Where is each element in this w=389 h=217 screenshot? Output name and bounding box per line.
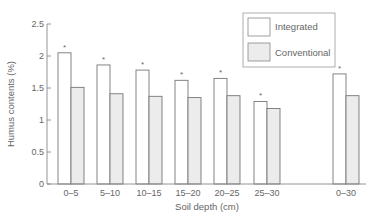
bar-group: * <box>58 43 84 184</box>
significance-marker: * <box>63 43 66 52</box>
bar-integrated <box>333 74 346 184</box>
bar-integrated <box>214 78 227 184</box>
x-tick-label: 0–5 <box>63 188 78 198</box>
significance-marker: * <box>141 60 144 69</box>
bar-conventional <box>149 96 162 184</box>
x-axis: 0–55–1010–1515–2020–2525–300–30 <box>47 184 366 198</box>
legend-label-integrated: Integrated <box>275 21 318 32</box>
significance-marker: * <box>259 91 262 100</box>
legend-swatch-integrated <box>248 18 270 36</box>
legend-label-conventional: Conventional <box>275 47 330 58</box>
y-tick-label: 2 <box>39 51 44 61</box>
bar-conventional <box>71 87 84 184</box>
bar-group: * <box>136 60 162 184</box>
significance-marker: * <box>180 70 183 79</box>
bar-integrated <box>175 80 188 184</box>
y-tick-label: 0.5 <box>31 147 44 157</box>
significance-marker: * <box>338 64 341 73</box>
bar-conventional <box>188 98 201 184</box>
legend: Integrated Conventional <box>243 13 335 67</box>
y-axis: 00.511.522.5 <box>31 19 51 189</box>
y-axis-title: Humus contents (%) <box>5 61 16 147</box>
bar-integrated <box>58 53 71 184</box>
bar-integrated <box>136 70 149 184</box>
x-tick-label: 0–30 <box>336 188 356 198</box>
x-tick-label: 20–25 <box>214 188 239 198</box>
x-tick-label: 25–30 <box>254 188 279 198</box>
y-tick-label: 2.5 <box>31 19 44 29</box>
x-axis-title: Soil depth (cm) <box>175 201 239 212</box>
y-tick-label: 1.5 <box>31 83 44 93</box>
bar-integrated <box>254 101 267 184</box>
significance-marker: * <box>102 55 105 64</box>
x-tick-label: 10–15 <box>136 188 161 198</box>
bar-group: * <box>97 55 123 184</box>
bar-group: * <box>254 91 280 184</box>
legend-swatch-conventional <box>248 43 270 61</box>
bar-conventional <box>267 108 280 184</box>
bar-conventional <box>227 96 240 184</box>
bar-conventional <box>110 94 123 184</box>
bar-conventional <box>346 96 359 184</box>
significance-marker: * <box>219 68 222 77</box>
x-tick-label: 5–10 <box>100 188 120 198</box>
bar-group: * <box>333 64 359 184</box>
bar-integrated <box>97 65 110 184</box>
y-tick-label: 0 <box>39 179 44 189</box>
bar-group: * <box>214 68 240 184</box>
x-tick-label: 15–20 <box>175 188 200 198</box>
y-tick-label: 1 <box>39 115 44 125</box>
bar-group: * <box>175 70 201 184</box>
bar-chart: ******* 00.511.522.5 0–55–1010–1515–2020… <box>0 0 389 217</box>
